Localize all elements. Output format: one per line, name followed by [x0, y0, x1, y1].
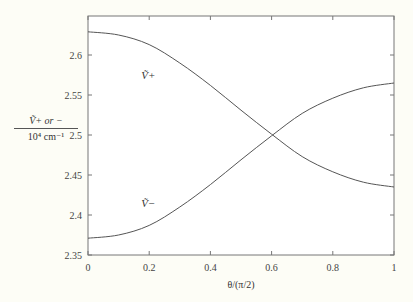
x-tick-label: 0.2: [143, 262, 156, 273]
y-axis-title: Ṽ+ or − 10⁴ cm⁻¹: [14, 115, 78, 142]
line-chart: 00.20.40.60.812.352.42.452.52.552.6θ/(π/…: [0, 0, 413, 302]
plot-area: [88, 16, 394, 255]
plot-frame: [88, 16, 394, 255]
y-tick-label: 2.55: [65, 90, 83, 101]
x-tick-label: 0.6: [265, 262, 278, 273]
x-tick-label: 0: [86, 262, 91, 273]
curve-label-v-plus: Ṽ+: [141, 69, 155, 81]
x-tick-label: 1: [392, 262, 397, 273]
y-axis-title-denominator: 10⁴ cm⁻¹: [14, 129, 78, 142]
x-tick-label: 0.8: [327, 262, 340, 273]
x-tick-label: 0.4: [204, 262, 217, 273]
y-tick-label: 2.45: [65, 170, 83, 181]
curve-label-v-minus: Ṽ−: [141, 197, 155, 209]
y-tick-label: 2.4: [70, 210, 83, 221]
x-axis-title: θ/(π/2): [227, 279, 254, 291]
y-tick-label: 2.6: [70, 50, 83, 61]
y-tick-label: 2.35: [65, 250, 83, 261]
y-axis-title-numerator: Ṽ+ or −: [14, 115, 78, 129]
